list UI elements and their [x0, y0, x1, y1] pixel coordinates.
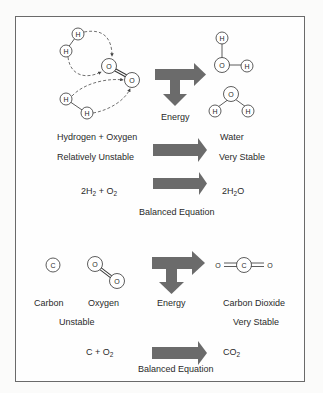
svg-text:C: C	[50, 262, 55, 269]
hydrogen-molecule-2: H H	[60, 93, 93, 119]
water-molecule-2: O H H	[209, 87, 254, 118]
svg-text:C: C	[241, 262, 246, 269]
energy-release-arrow-1	[155, 63, 206, 106]
energy-label-2: Energy	[157, 298, 186, 308]
atom-h: H	[75, 31, 80, 38]
svg-text:H: H	[212, 108, 217, 115]
equation-arrow-2	[152, 341, 207, 365]
product-label: Carbon Dioxide	[223, 298, 285, 308]
carbon-dioxide-molecule: O C O	[215, 258, 273, 273]
reactants-label: Hydrogen + Oxygen	[57, 132, 137, 142]
carbon-atom: C	[46, 258, 60, 272]
carbon-label: Carbon	[34, 298, 64, 308]
reactants-stability-label: Relatively Unstable	[57, 152, 134, 162]
equation-left-1: 2H2 + O2	[81, 186, 117, 196]
svg-text:O: O	[106, 63, 112, 70]
svg-text:H: H	[245, 108, 250, 115]
reaction-diagram: H H O O H H	[0, 0, 323, 393]
svg-text:O: O	[267, 262, 273, 269]
svg-text:H: H	[244, 63, 249, 70]
svg-text:O: O	[114, 278, 120, 285]
svg-text:H: H	[63, 96, 68, 103]
svg-text:O: O	[228, 91, 234, 98]
hydrogen-molecule-1: H H	[60, 28, 84, 57]
reactants-stability-label-2: Unstable	[59, 317, 95, 327]
water-molecule-1: H O H	[215, 32, 254, 73]
equation-right-1: 2H2O	[222, 186, 244, 196]
svg-text:O: O	[215, 262, 221, 269]
oxygen-molecule-2: O O	[88, 257, 125, 289]
svg-text:O: O	[219, 62, 225, 69]
equation-arrow-1	[153, 172, 207, 195]
oxygen-label: Oxygen	[88, 298, 119, 308]
equation-left-2: C + O2	[86, 347, 113, 357]
equation-right-2: CO2	[223, 347, 240, 357]
products-label: Water	[220, 132, 244, 142]
svg-text:O: O	[129, 77, 135, 84]
atom-h: H	[63, 48, 68, 55]
products-stability-label-2: Very Stable	[233, 317, 279, 327]
energy-label-1: Energy	[161, 112, 190, 122]
equation-caption-2: Balanced Equation	[138, 364, 214, 374]
oxygen-molecule: O O	[102, 59, 140, 88]
svg-text:H: H	[84, 110, 89, 117]
equation-caption-1: Balanced Equation	[139, 207, 215, 217]
stability-arrow-1	[153, 138, 207, 162]
svg-text:H: H	[219, 35, 224, 42]
products-stability-label: Very Stable	[219, 152, 265, 162]
svg-text:O: O	[92, 261, 98, 268]
energy-release-arrow-2	[152, 251, 205, 294]
